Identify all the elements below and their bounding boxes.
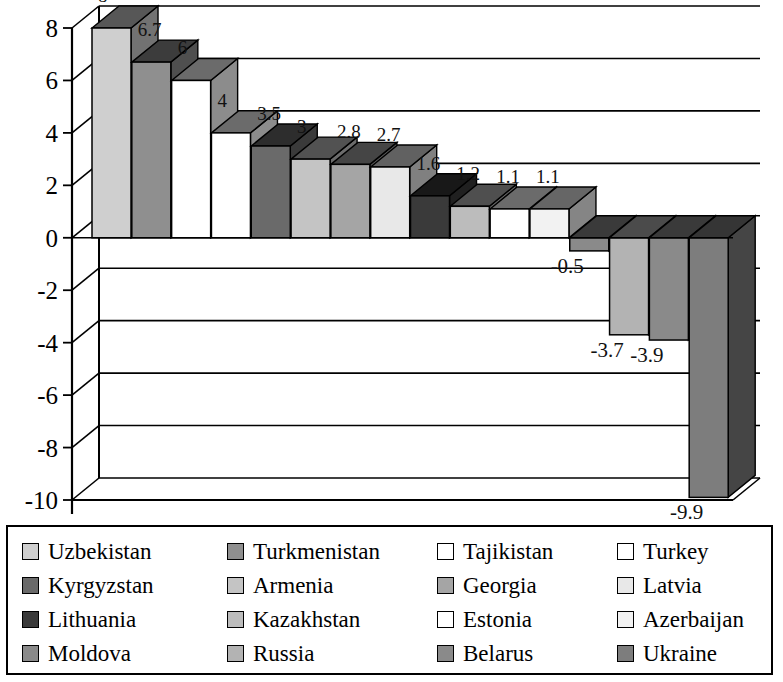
bar-front-face	[331, 164, 370, 237]
legend-item-label: Armenia	[253, 574, 333, 597]
axis-depth-connector	[72, 321, 99, 343]
bar[interactable]	[689, 216, 755, 498]
legend-item[interactable]: Georgia	[437, 568, 617, 602]
legend-item-label: Lithuania	[48, 608, 136, 631]
legend-item[interactable]: Estonia	[437, 602, 617, 636]
legend-swatch-icon	[22, 543, 39, 560]
legend-item[interactable]: Uzbekistan	[22, 534, 227, 568]
bar-front-face	[92, 28, 131, 238]
y-axis-tick-label: 4	[46, 120, 59, 147]
legend-item-label: Russia	[253, 642, 314, 665]
legend-swatch-icon	[437, 611, 454, 628]
legend-item-label: Turkmenistan	[253, 540, 380, 563]
bars-group	[92, 6, 755, 497]
legend-item[interactable]: Kazakhstan	[227, 602, 437, 636]
legend-swatch-icon	[437, 645, 454, 662]
legend-swatch-icon	[437, 577, 454, 594]
bar-front-face	[291, 159, 330, 238]
legend-item-label: Turkey	[643, 540, 709, 563]
legend-item-label: Belarus	[463, 642, 533, 665]
legend-item-label: Uzbekistan	[48, 540, 151, 563]
legend-item[interactable]: Belarus	[437, 636, 617, 670]
legend-swatch-icon	[227, 645, 244, 662]
legend-swatch-icon	[617, 543, 634, 560]
legend-swatch-icon	[617, 577, 634, 594]
legend-item[interactable]: Lithuania	[22, 602, 227, 636]
axis-depth-connector	[72, 478, 99, 500]
legend-item-label: Ukraine	[643, 642, 717, 665]
axis-depth-connector	[72, 373, 99, 395]
bar-front-face	[570, 238, 609, 251]
bar-value-label: 3	[297, 116, 307, 137]
y-axis-tick-label: 2	[46, 172, 59, 199]
chart-page: 86420-2-4-6-8-1086.7643.532.82.71.61.21.…	[0, 0, 783, 682]
bar-front-face	[172, 80, 211, 237]
legend-item-label: Latvia	[643, 574, 702, 597]
legend-swatch-icon	[617, 645, 634, 662]
bar-value-label: 1.6	[417, 153, 441, 174]
bar-front-face	[530, 209, 569, 238]
bar-front-face	[450, 206, 489, 237]
bar-value-label: -9.9	[670, 500, 703, 520]
axis-depth-connector	[72, 268, 99, 290]
bar-front-face	[490, 209, 529, 238]
legend-swatch-icon	[22, 645, 39, 662]
chart-legend: UzbekistanTurkmenistanTajikistanTurkeyKy…	[6, 525, 773, 675]
legend-item-label: Tajikistan	[463, 540, 553, 563]
bar-value-label: -3.7	[590, 338, 623, 362]
bar-value-label: -3.9	[630, 343, 663, 367]
axis-depth-connector	[72, 426, 99, 448]
y-axis-tick-label: 8	[46, 15, 59, 42]
legend-item[interactable]: Kyrgyzstan	[22, 568, 227, 602]
legend-item-label: Georgia	[463, 574, 537, 597]
legend-grid: UzbekistanTurkmenistanTajikistanTurkeyKy…	[22, 534, 767, 670]
y-axis-tick-label: -10	[25, 487, 58, 514]
legend-item[interactable]: Turkmenistan	[227, 534, 437, 568]
bar-front-face	[132, 62, 171, 238]
legend-swatch-icon	[227, 577, 244, 594]
bar-value-label: 2.8	[337, 121, 361, 142]
bar-value-label: -0.5	[551, 254, 584, 278]
y-axis-tick-label: -4	[37, 330, 58, 357]
legend-item-label: Kyrgyzstan	[48, 574, 154, 597]
legend-item-label: Azerbaijan	[643, 608, 744, 631]
y-axis-tick-label: -8	[37, 435, 58, 462]
bar-front-face	[251, 146, 290, 238]
legend-swatch-icon	[22, 611, 39, 628]
legend-item[interactable]: Ukraine	[617, 636, 782, 670]
y-axis-tick-label: 0	[46, 225, 59, 252]
legend-swatch-icon	[227, 611, 244, 628]
plot-svg: 86420-2-4-6-8-1086.7643.532.82.71.61.21.…	[0, 0, 783, 520]
bar-value-label: 1.1	[496, 166, 520, 187]
bar-value-label: 6.7	[138, 19, 162, 40]
bar-value-label: 4	[217, 90, 227, 111]
bar-front-face	[610, 238, 649, 335]
legend-swatch-icon	[227, 543, 244, 560]
bar-front-face	[371, 167, 410, 238]
bar-front-face	[649, 238, 688, 340]
bar-front-face	[411, 196, 450, 238]
legend-item[interactable]: Tajikistan	[437, 534, 617, 568]
legend-item[interactable]: Latvia	[617, 568, 782, 602]
legend-item-label: Estonia	[463, 608, 532, 631]
legend-item[interactable]: Russia	[227, 636, 437, 670]
y-axis-tick-label: -6	[37, 382, 58, 409]
bar-side-face	[728, 216, 755, 498]
bar-value-label: 3.5	[257, 103, 281, 124]
y-axis-tick-label: 6	[46, 67, 59, 94]
bar-chart: 86420-2-4-6-8-1086.7643.532.82.71.61.21.…	[0, 0, 783, 520]
legend-swatch-icon	[617, 611, 634, 628]
y-axis-tick-label: -2	[37, 277, 58, 304]
legend-item-label: Moldova	[48, 642, 131, 665]
bar-value-label: 1.2	[456, 163, 480, 184]
bar-front-face	[211, 133, 250, 238]
legend-item[interactable]: Turkey	[617, 534, 782, 568]
bar-front-face	[689, 238, 728, 498]
legend-item[interactable]: Moldova	[22, 636, 227, 670]
legend-item[interactable]: Armenia	[227, 568, 437, 602]
bar-value-label: 8	[98, 0, 108, 6]
bar-value-label: 1.1	[536, 166, 560, 187]
legend-item[interactable]: Azerbaijan	[617, 602, 782, 636]
legend-swatch-icon	[437, 543, 454, 560]
legend-item-label: Kazakhstan	[253, 608, 360, 631]
